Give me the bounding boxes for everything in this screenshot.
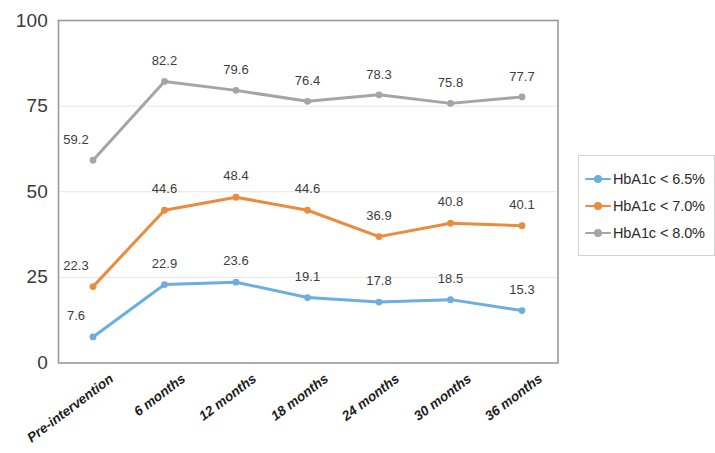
data-point: [161, 78, 168, 85]
data-value-label: 18.5: [438, 271, 463, 286]
data-value-label: 77.7: [509, 69, 534, 84]
data-value-label: 44.6: [152, 181, 177, 196]
legend-item-label: HbA1c < 8.0%: [613, 225, 705, 241]
data-value-label: 22.9: [152, 256, 177, 271]
y-axis-tick-label: 25: [0, 266, 48, 288]
data-point: [447, 220, 454, 227]
data-value-label: 75.8: [438, 75, 463, 90]
data-value-label: 40.8: [438, 194, 463, 209]
chart-legend: HbA1c < 6.5%HbA1c < 7.0%HbA1c < 8.0%: [578, 155, 715, 256]
legend-marker-icon: [585, 226, 611, 240]
data-value-label: 79.6: [223, 62, 248, 77]
data-value-label: 15.3: [509, 282, 534, 297]
legend-marker-icon: [585, 172, 611, 186]
data-value-label: 22.3: [63, 258, 88, 273]
data-value-label: 17.8: [366, 273, 391, 288]
data-value-label: 82.2: [152, 53, 177, 68]
y-axis-tick-label: 50: [0, 181, 48, 203]
data-point: [161, 281, 168, 288]
data-value-label: 40.1: [509, 197, 534, 212]
legend-item[interactable]: HbA1c < 8.0%: [585, 219, 714, 246]
data-point: [90, 334, 97, 341]
data-value-label: 44.6: [295, 181, 320, 196]
legend-marker-icon: [585, 199, 611, 213]
y-axis-tick-label: 75: [0, 95, 48, 117]
data-point: [304, 294, 311, 301]
data-value-label: 23.6: [223, 253, 248, 268]
legend-item[interactable]: HbA1c < 7.0%: [585, 192, 714, 219]
data-value-label: 48.4: [223, 168, 248, 183]
data-value-label: 78.3: [366, 67, 391, 82]
y-axis-tick-label: 100: [0, 10, 48, 32]
series-line: [93, 81, 522, 160]
data-point: [233, 279, 240, 286]
data-point: [90, 283, 97, 290]
data-point: [304, 98, 311, 105]
legend-item-label: HbA1c < 6.5%: [613, 171, 705, 187]
data-value-label: 76.4: [295, 73, 320, 88]
data-point: [233, 87, 240, 94]
data-value-label: 59.2: [63, 132, 88, 147]
data-point: [90, 157, 97, 164]
data-value-label: 36.9: [366, 208, 391, 223]
data-point: [376, 233, 383, 240]
data-point: [519, 93, 526, 100]
data-point: [233, 194, 240, 201]
data-point: [519, 307, 526, 314]
series-line: [93, 282, 522, 337]
data-point: [376, 299, 383, 306]
data-point: [447, 100, 454, 107]
data-point: [161, 207, 168, 214]
y-axis-tick-label: 0: [0, 352, 48, 374]
legend-item-label: HbA1c < 7.0%: [613, 198, 705, 214]
data-point: [447, 296, 454, 303]
legend-item[interactable]: HbA1c < 6.5%: [585, 165, 714, 192]
data-point: [519, 222, 526, 229]
data-point: [376, 91, 383, 98]
data-value-label: 7.6: [67, 308, 85, 323]
data-point: [304, 207, 311, 214]
data-value-label: 19.1: [295, 269, 320, 284]
